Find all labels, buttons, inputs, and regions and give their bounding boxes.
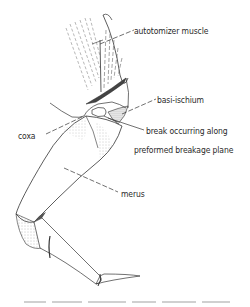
autotomizer-muscle: [86, 78, 126, 104]
label-autotomizer-muscle: autotomizer muscle: [134, 26, 208, 37]
label-merus: merus: [121, 189, 145, 200]
cropped-caption-fragment: [24, 301, 244, 307]
label-break-line2: preformed breakage plane: [134, 145, 233, 156]
label-break-line1: break occurring along: [146, 126, 227, 137]
leg-autotomy-diagram: autotomizer muscle basi-ischium coxa bre…: [0, 0, 250, 307]
label-coxa: coxa: [18, 131, 35, 142]
dactyl-segment: [96, 274, 140, 284]
body-wall-region: [66, 14, 128, 92]
label-basi-ischium: basi-ischium: [157, 95, 204, 106]
propodus-segment: [34, 218, 100, 284]
